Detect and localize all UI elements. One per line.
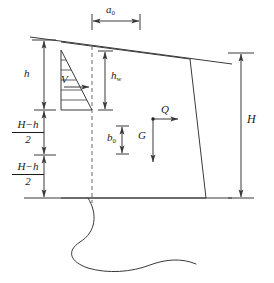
- upstream-slope-line: [30, 37, 232, 64]
- lower-fraction-denominator: 2: [12, 176, 44, 188]
- lower-fraction-numerator: H−h: [12, 161, 44, 173]
- self-weight-label-G: G: [138, 130, 146, 141]
- mid-segment-fraction-label: H−h 2: [12, 119, 44, 145]
- upper-height-label: h: [24, 68, 30, 79]
- mid-fraction-denominator: 2: [12, 134, 44, 146]
- water-force-label-V: V: [61, 74, 68, 85]
- horizontal-load-label-Q: Q: [161, 104, 169, 115]
- dam-outline: [61, 42, 206, 198]
- water-head-label-hw: hw: [111, 70, 121, 81]
- crest-width-label: a0: [106, 4, 115, 15]
- weight-arm-label-b0: b0: [107, 132, 116, 143]
- foundation-scour-curve: [72, 198, 196, 272]
- dam-stability-diagram: a0 h H−h 2 H−h 2 V hw b0 G Q H: [0, 0, 274, 283]
- total-height-label-H: H: [247, 113, 256, 125]
- lower-segment-fraction-label: H−h 2: [12, 161, 44, 187]
- mid-fraction-numerator: H−h: [12, 119, 44, 131]
